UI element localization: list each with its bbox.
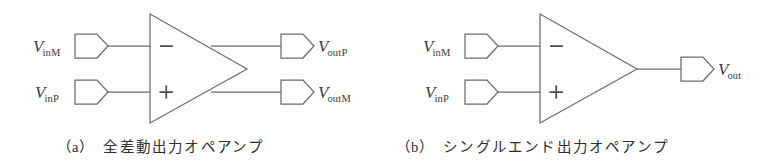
var-subscript: out — [727, 70, 741, 81]
caption-text-a: 全差動出力オペアンプ — [103, 139, 264, 155]
label-input-inp-a: VinP — [35, 84, 60, 101]
minus-sign-a — [160, 45, 173, 47]
label-input-inp-b: VinP — [425, 84, 450, 101]
var-subscript: inP — [434, 93, 449, 104]
pin-output-out-b — [681, 57, 714, 81]
panel-a-schematic — [75, 14, 314, 123]
plus-sign-b — [550, 85, 564, 99]
caption-text-b: シングルエンド出力オペアンプ — [443, 139, 669, 155]
figure-opamp-symbols: VinM VinP VoutP VoutM VinM VinP Vout （a）… — [0, 0, 771, 168]
var-subscript: inM — [432, 47, 450, 58]
var-subscript: inM — [42, 47, 60, 58]
label-input-inm-b: VinM — [423, 38, 452, 55]
pin-input-inm-a — [75, 34, 108, 58]
var-subscript: inP — [44, 93, 59, 104]
label-input-inm-a: VinM — [33, 38, 62, 55]
caption-tag-b: （b） — [396, 139, 434, 155]
pin-input-inp-a — [75, 80, 108, 104]
var-subscript: outP — [327, 47, 347, 58]
plus-sign-a — [160, 85, 174, 99]
panel-b-schematic — [465, 14, 714, 123]
opamp-triangle-a — [150, 14, 247, 123]
label-output-outp-a: VoutP — [318, 38, 348, 55]
opamp-triangle-b — [540, 14, 637, 123]
var-subscript: outM — [327, 93, 351, 104]
minus-sign-b — [550, 45, 563, 47]
pin-input-inp-b — [465, 80, 498, 104]
caption-panel-b: （b）シングルエンド出力オペアンプ — [396, 140, 669, 155]
caption-tag-a: （a） — [57, 139, 94, 155]
pin-output-outp-a — [281, 34, 314, 58]
caption-panel-a: （a）全差動出力オペアンプ — [57, 140, 264, 155]
pin-input-inm-b — [465, 34, 498, 58]
label-output-out-b: Vout — [718, 61, 742, 78]
label-output-outm-a: VoutM — [318, 84, 352, 101]
pin-output-outm-a — [281, 80, 314, 104]
